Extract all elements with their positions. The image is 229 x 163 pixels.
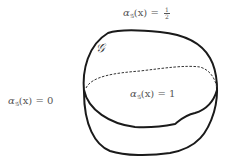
- dashed-boundary-curve: [86, 66, 217, 88]
- set-diagram: [0, 0, 229, 163]
- value-one: 1: [169, 88, 175, 99]
- alpha-symbol: α: [123, 7, 130, 18]
- alpha-one-label: α𝒢(x) = 1: [130, 89, 175, 100]
- alpha-symbol: α: [8, 95, 15, 106]
- equals-sign: =: [154, 88, 169, 99]
- equals-sign: =: [147, 7, 162, 18]
- argument-x: (x): [134, 7, 147, 18]
- set-g-label: 𝒢: [96, 42, 105, 54]
- alpha-half-label: α𝒢(x) = 12: [123, 7, 170, 20]
- fraction-one-half: 12: [164, 7, 170, 20]
- argument-x: (x): [141, 88, 154, 99]
- alpha-zero-label: α𝒢(x) = 0: [8, 96, 53, 107]
- value-zero: 0: [47, 95, 53, 106]
- alpha-symbol: α: [130, 88, 137, 99]
- equals-sign: =: [32, 95, 47, 106]
- fraction-denominator: 2: [164, 14, 170, 20]
- argument-x: (x): [19, 95, 32, 106]
